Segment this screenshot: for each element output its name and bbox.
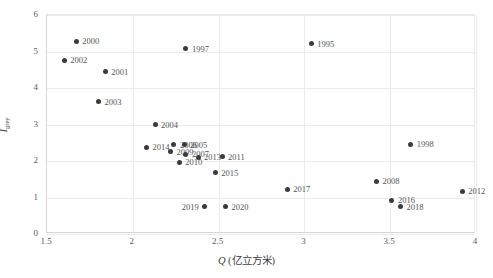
data-point-label: 2008	[382, 177, 399, 186]
data-point-label: 2011	[228, 152, 245, 161]
data-point[interactable]	[309, 41, 314, 46]
y-axis-tick-label: 5	[34, 46, 39, 56]
data-point[interactable]	[389, 198, 394, 203]
gridline-vertical	[304, 15, 305, 232]
data-point[interactable]	[213, 170, 218, 175]
data-point-label: 2018	[406, 202, 423, 211]
data-point-label: 2014	[153, 143, 170, 152]
gridline-vertical	[476, 15, 477, 232]
data-point[interactable]	[408, 142, 413, 147]
x-axis-tick-label: 3.5	[384, 236, 395, 246]
gridline-horizontal	[47, 88, 474, 89]
data-point-label: 2020	[231, 202, 248, 211]
data-point[interactable]	[196, 155, 201, 160]
y-axis-tick-label: 3	[34, 119, 39, 129]
data-point[interactable]	[168, 149, 173, 154]
y-axis-tick-label: 6	[34, 9, 39, 19]
data-point-label: 2004	[161, 120, 178, 129]
data-point[interactable]	[96, 99, 101, 104]
data-point-label: 2017	[293, 185, 310, 194]
gridline-vertical	[133, 15, 134, 232]
y-axis-subscript: grey	[3, 117, 10, 129]
y-axis-symbol: I	[0, 129, 9, 133]
data-point[interactable]	[202, 204, 207, 209]
data-point[interactable]	[374, 179, 379, 184]
data-point[interactable]	[153, 122, 158, 127]
data-point[interactable]	[144, 145, 149, 150]
data-point-label: 1995	[317, 40, 334, 49]
y-axis-tick-label: 2	[34, 155, 39, 165]
x-axis-title: Q (亿立方米)	[0, 252, 493, 267]
gridline-horizontal	[47, 15, 474, 16]
x-axis-symbol: Q	[218, 255, 226, 266]
x-axis-unit: (亿立方米)	[228, 255, 275, 266]
data-point-label: 1998	[417, 140, 434, 149]
x-axis-tick-label: 1.5	[40, 236, 51, 246]
data-point[interactable]	[62, 58, 67, 63]
data-point[interactable]	[285, 187, 290, 192]
data-point[interactable]	[103, 69, 108, 74]
y-axis-tick-label: 0	[34, 228, 39, 238]
gridline-horizontal	[47, 125, 474, 126]
y-axis-tick-label: 4	[34, 82, 39, 92]
data-point-label: 2012	[468, 187, 485, 196]
data-point[interactable]	[220, 154, 225, 159]
plot-area: 2000200220011997199520032004201420062005…	[46, 14, 475, 233]
data-point[interactable]	[398, 204, 403, 209]
x-axis-tick-label: 2	[130, 236, 135, 246]
x-axis-tick-label: 3	[301, 236, 306, 246]
data-point-label: 2019	[182, 202, 199, 211]
data-point-label: 2013	[204, 153, 221, 162]
data-point-label: 2000	[82, 37, 99, 46]
data-point-label: 2001	[111, 68, 128, 77]
gridline-vertical	[219, 15, 220, 232]
x-axis-tick-label: 2.5	[212, 236, 223, 246]
data-point[interactable]	[460, 189, 465, 194]
x-axis-tick-label: 4	[473, 236, 478, 246]
data-point[interactable]	[223, 204, 228, 209]
data-point-label: 2015	[221, 168, 238, 177]
gridline-horizontal	[47, 52, 474, 53]
y-axis-title: Igrey	[0, 117, 10, 132]
data-point[interactable]	[177, 160, 182, 165]
y-axis-tick-label: 1	[34, 192, 39, 202]
scatter-chart-figure: 2000200220011997199520032004201420062005…	[0, 0, 493, 278]
gridline-horizontal	[47, 161, 474, 162]
data-point-label: 2003	[104, 97, 121, 106]
data-point-label: 2002	[70, 56, 87, 65]
data-point-label: 1997	[192, 45, 209, 54]
gridline-horizontal	[47, 234, 474, 235]
data-point[interactable]	[74, 39, 79, 44]
